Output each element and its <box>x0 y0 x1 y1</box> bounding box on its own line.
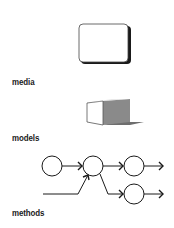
node-3 <box>124 156 144 176</box>
node-4 <box>124 184 144 204</box>
label-methods: methods <box>12 208 44 218</box>
cube-model-icon <box>87 99 144 125</box>
label-models: models <box>12 133 39 143</box>
network-flow-icon <box>42 156 163 204</box>
media-card-icon <box>79 24 131 64</box>
diagram-canvas <box>0 0 174 228</box>
node-2 <box>83 156 103 176</box>
label-media: media <box>12 77 34 87</box>
node-1 <box>42 156 62 176</box>
